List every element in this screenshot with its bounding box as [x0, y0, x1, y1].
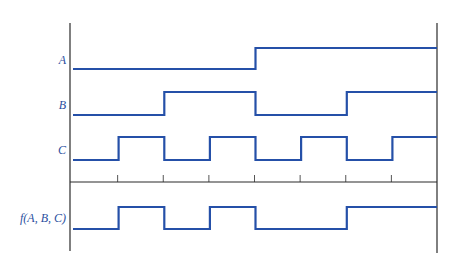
signal-label-f: f(A, B, C) [2, 211, 66, 225]
waveform-f [73, 207, 437, 229]
waveform-a [73, 48, 437, 69]
time-ticks [118, 175, 392, 182]
waveform-c [73, 137, 437, 160]
waveform-b [73, 92, 437, 115]
signal-label-b: B [2, 98, 66, 112]
waveforms [73, 48, 437, 229]
signal-label-a: A [2, 53, 66, 67]
signal-label-c: C [2, 143, 66, 157]
timing-diagram [0, 0, 461, 262]
